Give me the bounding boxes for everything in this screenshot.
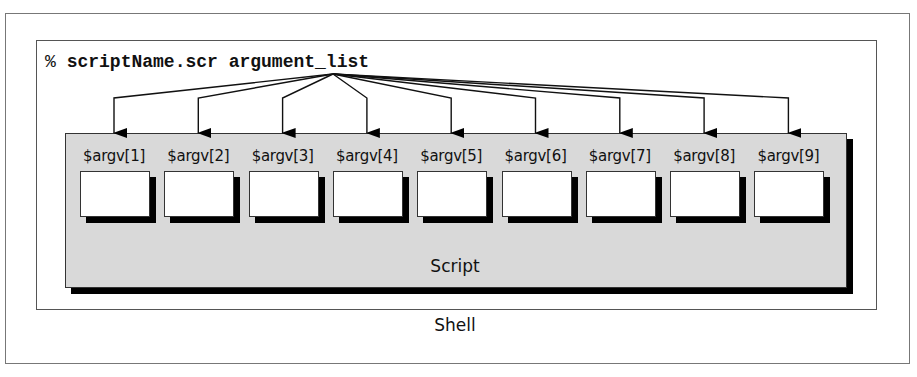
script-label: Script [405, 256, 505, 276]
shell-label: Shell [405, 315, 505, 335]
arrow [333, 74, 367, 133]
arrow [333, 74, 788, 133]
arrow [333, 74, 704, 133]
arrow [114, 74, 333, 133]
arrow [283, 74, 333, 133]
